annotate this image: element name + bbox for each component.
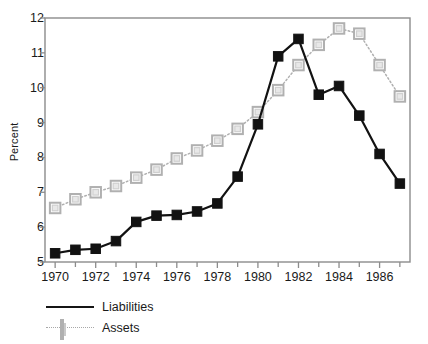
plot-area xyxy=(0,0,428,344)
data-point-inner xyxy=(357,31,363,37)
legend-label-assets: Assets xyxy=(96,321,140,335)
series-line-liabilities xyxy=(55,39,400,253)
legend-item-assets[interactable]: Assets xyxy=(44,317,264,338)
data-point-inner xyxy=(377,62,383,68)
data-point-inner xyxy=(296,62,302,68)
data-point-inner xyxy=(93,189,99,195)
data-point-liabilities xyxy=(233,172,243,182)
chart-legend: Liabilities Assets xyxy=(44,296,264,338)
data-point-liabilities xyxy=(152,211,162,221)
data-point-liabilities xyxy=(213,199,223,209)
data-point-liabilities xyxy=(71,245,81,255)
data-point-inner xyxy=(52,205,58,211)
data-point-inner xyxy=(275,87,281,93)
data-point-inner xyxy=(397,94,403,100)
data-point-liabilities xyxy=(355,111,365,121)
data-point-inner xyxy=(194,148,200,154)
data-point-liabilities xyxy=(314,90,324,100)
data-point-inner xyxy=(215,138,221,144)
data-point-inner xyxy=(133,175,139,181)
plot-frame xyxy=(45,18,410,262)
data-point-liabilities xyxy=(334,81,344,91)
data-point-liabilities xyxy=(111,236,121,246)
legend-line-dotted-icon xyxy=(46,327,94,328)
data-point-liabilities xyxy=(132,217,142,227)
data-point-liabilities xyxy=(91,244,101,254)
data-point-liabilities xyxy=(50,249,60,258)
data-point-liabilities xyxy=(395,179,405,189)
data-point-inner xyxy=(113,183,119,189)
data-point-liabilities xyxy=(253,120,263,130)
data-point-liabilities xyxy=(192,207,202,217)
legend-key-liabilities xyxy=(44,298,96,316)
legend-label-liabilities: Liabilities xyxy=(96,300,153,314)
data-point-inner xyxy=(336,26,342,32)
open-square-icon xyxy=(60,321,64,339)
data-point-liabilities xyxy=(294,34,304,44)
legend-item-liabilities[interactable]: Liabilities xyxy=(44,296,264,317)
data-point-liabilities xyxy=(375,149,385,159)
series-line-assets xyxy=(55,28,400,208)
legend-key-assets xyxy=(44,319,96,337)
data-point-inner xyxy=(174,156,180,162)
data-point-inner xyxy=(73,196,79,202)
data-point-inner xyxy=(235,126,241,132)
data-point-inner xyxy=(316,42,322,48)
chart-figure: Percent 56789101112 19701972197419761978… xyxy=(0,0,428,344)
legend-line-solid-icon xyxy=(46,306,94,308)
data-point-liabilities xyxy=(273,52,283,62)
data-point-inner xyxy=(154,167,160,173)
data-point-liabilities xyxy=(172,210,182,220)
